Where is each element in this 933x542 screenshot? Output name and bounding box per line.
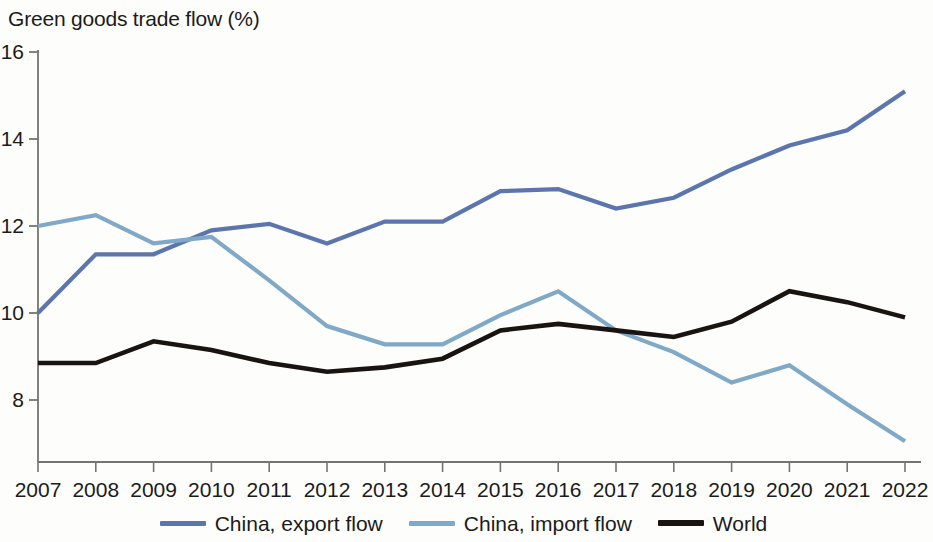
axes <box>29 50 921 472</box>
y-axis-tick-label: 16 <box>1 41 24 62</box>
x-axis-tick-label: 2019 <box>702 479 762 500</box>
legend-swatch-icon <box>658 520 704 526</box>
legend-swatch-icon <box>160 521 206 526</box>
x-axis-tick-label: 2008 <box>66 479 126 500</box>
y-axis-tick-label: 12 <box>1 215 24 236</box>
x-axis-tick-label: 2012 <box>297 479 357 500</box>
x-axis-tick-label: 2015 <box>470 479 530 500</box>
x-axis-tick-label: 2013 <box>355 479 415 500</box>
x-axis-tick-label: 2016 <box>528 479 588 500</box>
series-lines <box>38 91 905 441</box>
x-axis-tick-label: 2021 <box>817 479 877 500</box>
legend-label: World <box>713 513 767 534</box>
legend-item[interactable]: World <box>658 513 767 534</box>
x-axis-tick-label: 2010 <box>181 479 241 500</box>
x-axis-tick-label: 2007 <box>8 479 68 500</box>
x-axis-tick-label: 2017 <box>586 479 646 500</box>
x-axis-tick-label: 2009 <box>124 479 184 500</box>
chart-legend: China, export flowChina, import flowWorl… <box>0 508 927 538</box>
legend-swatch-icon <box>409 521 455 526</box>
x-axis-tick-label: 2014 <box>413 479 473 500</box>
series-line-china-export-flow <box>38 91 905 313</box>
x-axis-tick-label: 2020 <box>759 479 819 500</box>
x-axis-tick-label: 2018 <box>644 479 704 500</box>
x-axis-tick-label: 2022 <box>875 479 933 500</box>
legend-item[interactable]: China, import flow <box>409 513 632 534</box>
legend-item[interactable]: China, export flow <box>160 513 383 534</box>
legend-label: China, export flow <box>215 513 383 534</box>
y-axis-tick-label: 10 <box>1 302 24 323</box>
y-axis-tick-label: 8 <box>12 389 24 410</box>
legend-label: China, import flow <box>464 513 632 534</box>
x-axis-tick-label: 2011 <box>239 479 299 500</box>
y-axis-tick-label: 14 <box>1 128 24 149</box>
